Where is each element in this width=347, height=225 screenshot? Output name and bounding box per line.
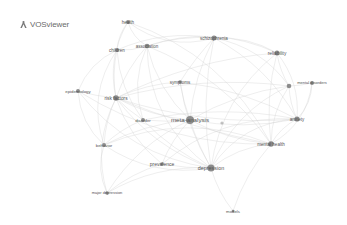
- vosviewer-logo: VOSviewer: [19, 20, 69, 29]
- node-circle[interactable]: [287, 84, 292, 89]
- node-meta-analysis[interactable]: meta-analysis: [171, 116, 209, 124]
- network-edge: [78, 50, 117, 91]
- network-edge: [116, 46, 147, 98]
- node-health[interactable]: health: [122, 20, 135, 25]
- node-mental-health[interactable]: mental health: [257, 141, 285, 147]
- node-minor-node[interactable]: [220, 121, 223, 124]
- vosviewer-logo-icon: [19, 20, 28, 29]
- app-name: VOSviewer: [30, 20, 69, 29]
- network-edge: [180, 38, 214, 82]
- node-label: behavior: [96, 143, 113, 148]
- network-edge: [116, 82, 289, 98]
- node-risk-factors[interactable]: risk factors: [104, 95, 128, 101]
- node-behavior[interactable]: behavior: [96, 143, 113, 148]
- node-label: disorder: [135, 118, 151, 123]
- network-edge: [289, 86, 297, 119]
- node-label: children: [109, 48, 125, 53]
- node-label: major depression: [92, 190, 123, 195]
- network-edge: [117, 22, 128, 50]
- network-edge: [206, 38, 214, 168]
- node-models[interactable]: models: [226, 209, 240, 214]
- node-label: epidemiology: [65, 89, 91, 94]
- network-edge: [211, 168, 233, 211]
- node-label: risk factors: [104, 96, 128, 101]
- node-symptoms[interactable]: symptoms: [170, 80, 191, 85]
- node-label: symptoms: [170, 80, 191, 85]
- network-edge: [116, 98, 211, 168]
- network-edge: [211, 53, 277, 168]
- network-edge: [269, 53, 277, 144]
- node-label: meta-analysis: [171, 116, 209, 123]
- network-edge: [107, 120, 190, 193]
- network-edge: [104, 120, 190, 145]
- node-label: anxiety: [290, 117, 305, 122]
- node-mental-disorders[interactable]: mental disorders: [297, 80, 327, 85]
- network-edge: [104, 98, 116, 145]
- network-edge: [117, 50, 143, 120]
- node-label: mental health: [257, 142, 285, 147]
- node-label: mental disorders: [297, 80, 327, 85]
- network-edge: [277, 53, 289, 86]
- node-mental-disorders-hub[interactable]: [287, 84, 292, 89]
- network-map[interactable]: healthchildrenassociationschizophreniare…: [0, 0, 347, 225]
- node-association[interactable]: association: [136, 44, 159, 49]
- node-major-depression[interactable]: major depression: [92, 190, 123, 195]
- node-prevalence[interactable]: prevalence: [150, 161, 175, 167]
- network-edge: [297, 83, 312, 119]
- network-edge: [233, 144, 271, 211]
- network-edge: [190, 86, 289, 120]
- node-circle[interactable]: [220, 121, 223, 124]
- network-edge: [214, 38, 289, 86]
- network-edge: [137, 46, 147, 120]
- node-label: prevalence: [150, 161, 175, 167]
- node-epidemiology[interactable]: epidemiology: [65, 89, 91, 94]
- node-disorder[interactable]: disorder: [135, 118, 151, 123]
- network-edge: [190, 38, 214, 120]
- network-edge: [78, 91, 104, 145]
- node-schizophrenia[interactable]: schizophrenia: [200, 36, 228, 41]
- node-label: depression: [198, 165, 224, 171]
- node-reliability[interactable]: reliability: [268, 51, 287, 56]
- node-children[interactable]: children: [109, 48, 125, 53]
- node-depression[interactable]: depression: [198, 164, 224, 171]
- network-edge: [211, 86, 289, 168]
- node-label: association: [136, 44, 159, 49]
- node-label: reliability: [268, 51, 287, 56]
- node-label: models: [226, 209, 240, 214]
- node-label: schizophrenia: [200, 36, 228, 41]
- node-anxiety[interactable]: anxiety: [290, 116, 305, 121]
- node-label: health: [122, 20, 135, 25]
